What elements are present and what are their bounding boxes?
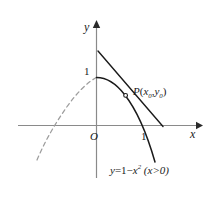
origin-label: O (90, 131, 98, 142)
x-axis-tick-label-1: 1 (141, 131, 147, 142)
x-axis (18, 122, 203, 129)
equation-domain: (x>0) (141, 164, 169, 176)
x-axis-label: x (190, 128, 195, 140)
y-axis (93, 20, 100, 178)
point-p-paren-close: ) (163, 85, 167, 97)
math-figure: y x O 1 1 P(x0,y0) y=1−x2 (x>0) (0, 0, 207, 197)
y-axis-label: y (84, 21, 89, 33)
point-p-marker (124, 94, 128, 98)
y-axis-arrow-icon (93, 20, 100, 28)
y-axis-tick-label-1: 1 (84, 66, 90, 77)
equation-label: y=1−x2 (x>0) (110, 164, 169, 176)
equation-operator: =1− (115, 164, 133, 176)
point-p-label: P(x0,y0) (133, 86, 166, 100)
parabola-dashed-branch (37, 78, 97, 161)
graph-canvas (0, 0, 207, 197)
x-axis-arrow-icon (196, 122, 203, 129)
point-p-name: P (133, 85, 140, 97)
